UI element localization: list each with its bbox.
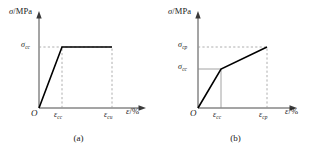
- caption-a: (a): [0, 133, 157, 143]
- curve-elastic-perfectly-plastic-a: [39, 47, 112, 108]
- x-axis-unit-a: /%: [129, 106, 139, 116]
- x-tick-sub-a-0: cc: [57, 114, 62, 120]
- y-tick-sub-b-0: cp: [182, 44, 187, 50]
- chart-panel-a: σ/MPa ε/% O σcc εcc εcu (a): [0, 0, 157, 151]
- y-tick-sigma-cc-a: σcc: [21, 40, 30, 49]
- x-tick-sub-a-1: cu: [107, 114, 112, 120]
- x-tick-epsilon-cc-a: εcc: [54, 110, 62, 119]
- origin-label-b: O: [190, 108, 197, 118]
- y-axis-label-b: σ/MPa: [168, 6, 191, 16]
- chart-panel-b: σ/MPa ε/% O σcp σcc εcc εcp (b): [157, 0, 314, 151]
- x-axis-label-b: ε/%: [285, 106, 298, 116]
- y-axis-arrow-b: [195, 11, 200, 19]
- x-tick-sub-b-1: cp: [262, 114, 267, 120]
- y-tick-sigma-cp-b: σcp: [178, 40, 187, 49]
- caption-b: (b): [157, 133, 314, 143]
- y-axis-unit-b: /MPa: [172, 6, 191, 16]
- x-tick-epsilon-cc-b: εcc: [213, 110, 221, 119]
- x-axis-label-a: ε/%: [126, 106, 139, 116]
- chart-b-plot: [157, 0, 314, 151]
- y-axis-label-a: σ/MPa: [9, 6, 32, 16]
- chart-a-plot: [0, 0, 157, 151]
- x-tick-epsilon-cp-b: εcp: [259, 110, 267, 119]
- y-tick-sub-a-0: cc: [25, 44, 30, 50]
- curve-bilinear-hardening-b: [198, 47, 267, 108]
- y-axis-arrow-a: [36, 11, 41, 19]
- y-axis-unit-a: /MPa: [13, 6, 32, 16]
- x-tick-sub-b-0: cc: [216, 114, 221, 120]
- x-axis-arrow-a: [139, 105, 147, 110]
- figure-container: σ/MPa ε/% O σcc εcc εcu (a) σ/: [0, 0, 314, 151]
- y-tick-sub-b-1: cc: [182, 66, 187, 72]
- y-tick-sigma-cc-b: σcc: [178, 62, 187, 71]
- x-axis-unit-b: /%: [288, 106, 298, 116]
- origin-label-a: O: [31, 108, 38, 118]
- x-tick-epsilon-cu-a: εcu: [104, 110, 112, 119]
